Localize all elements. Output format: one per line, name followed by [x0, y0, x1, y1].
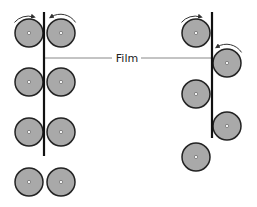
roller-axle-icon [59, 130, 62, 133]
roller [181, 16, 210, 47]
roller [213, 112, 241, 140]
roller [47, 14, 76, 47]
roller-axle-icon [194, 92, 197, 95]
roller [15, 68, 43, 96]
roller [182, 80, 210, 108]
roller-axle-icon [59, 31, 62, 34]
roller-axle-icon [27, 180, 30, 183]
roller [14, 16, 43, 47]
roller [15, 168, 43, 196]
roller-axle-icon [27, 80, 30, 83]
roller-axle-icon [194, 155, 197, 158]
roller-axle-icon [194, 31, 197, 34]
roller [15, 118, 43, 146]
roller [47, 168, 75, 196]
film-transport-diagram: Film [0, 0, 257, 207]
roller [47, 118, 75, 146]
roller [182, 143, 210, 171]
roller-axle-icon [27, 31, 30, 34]
roller-axle-icon [27, 130, 30, 133]
roller [213, 44, 242, 77]
film-label: Film [116, 52, 138, 65]
right-roller-assembly [181, 12, 241, 171]
roller-axle-icon [59, 80, 62, 83]
roller [47, 68, 75, 96]
roller-axle-icon [225, 61, 228, 64]
roller-axle-icon [59, 180, 62, 183]
roller-axle-icon [225, 124, 228, 127]
left-roller-assembly [14, 12, 75, 196]
